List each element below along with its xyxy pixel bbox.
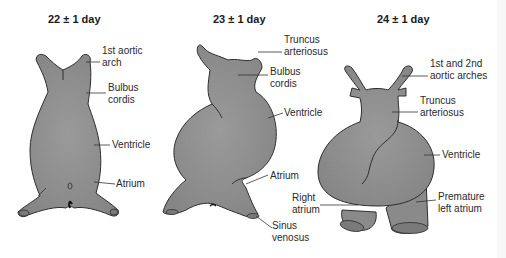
label-atrium: Atrium (270, 170, 299, 182)
label-atrium: Atrium (116, 178, 145, 190)
heart-22-day (18, 54, 119, 216)
panel-title-22-day: 22 ± 1 day (48, 13, 101, 25)
heart-development-diagram (0, 0, 506, 258)
label-aortic-arches: 1st and 2nd aortic arches (430, 58, 487, 82)
label-1st-aortic-arch: 1st aortic arch (102, 45, 143, 69)
panel-title-23-day: 23 ± 1 day (213, 13, 266, 25)
panel-title-24-day: 24 ± 1 day (377, 13, 430, 25)
label-truncus-arteriosus: Truncus arteriosus (284, 34, 328, 58)
label-premature-left-atrium: Premature left atrium (438, 191, 485, 215)
label-ventricle: Ventricle (112, 139, 150, 151)
label-ventricle: Ventricle (442, 149, 480, 161)
label-bulbus-cordis: Bulbus cordis (108, 82, 139, 106)
label-truncus-arteriosus: Truncus arteriosus (420, 95, 464, 119)
label-bulbus-cordis: Bulbus cordis (270, 66, 301, 90)
label-ventricle: Ventricle (284, 107, 322, 119)
label-right-atrium: Right atrium (292, 192, 320, 216)
label-sinus-venosus: Sinus venosus (272, 220, 309, 244)
heart-24-day (318, 66, 440, 234)
heart-23-day (163, 45, 283, 228)
